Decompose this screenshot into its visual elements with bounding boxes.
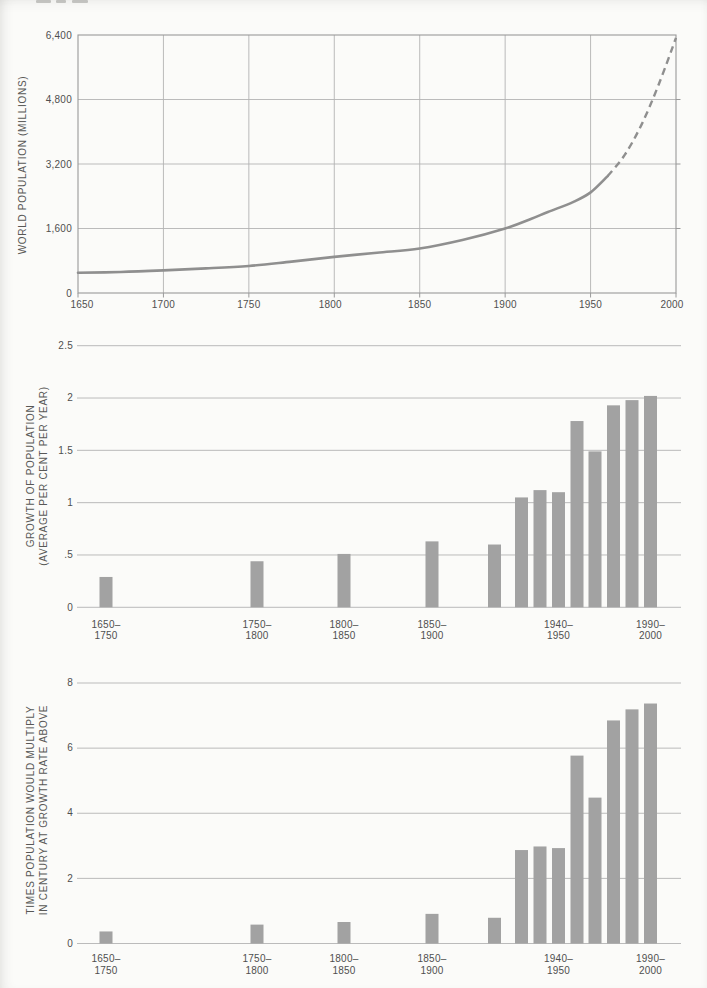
x-tick-label: 1650 [70, 299, 93, 310]
world-population-line-chart: 6,4004,8003,2001,60001650170017501800185… [0, 0, 707, 330]
y-tick-label: 1 [67, 497, 73, 508]
y-tick-label: 6,400 [46, 30, 72, 41]
bar-1970-1980 [607, 405, 620, 607]
bar-1940-1950 [552, 492, 565, 607]
x-tick-label-line1: 1990– [636, 953, 665, 964]
population-curve-projected-dashed [608, 38, 676, 176]
bar-1980-1990 [626, 709, 639, 943]
x-tick-label: 1800 [319, 299, 342, 310]
y-tick-label: 0 [67, 602, 73, 613]
y-tick-label: 2 [67, 392, 73, 403]
bar-1750-1800 [251, 561, 264, 607]
x-tick-label-line2: 1900 [420, 630, 443, 641]
bar-1990-2000 [644, 396, 657, 607]
bar-1850-1900 [426, 914, 439, 944]
y-tick-label: 2 [67, 873, 73, 884]
bar-1750-1800 [251, 925, 264, 944]
bar-1800-1850 [338, 554, 351, 607]
x-tick-label-line2: 1750 [94, 965, 117, 976]
y-tick-label: 8 [67, 677, 73, 688]
x-tick-label-line1: 1990– [636, 619, 665, 630]
x-tick-label: 2000 [660, 299, 683, 310]
x-tick-label: 1900 [494, 299, 517, 310]
growth-rate-bar-chart: 2.521.51.501650–17501750–18001800–185018… [0, 330, 707, 660]
x-tick-label: 1700 [152, 299, 175, 310]
y-tick-label: 0 [67, 938, 73, 949]
x-tick-label-line1: 1650– [91, 619, 120, 630]
x-tick-label-line1: 1800– [329, 953, 358, 964]
y-tick-label: 1.5 [58, 445, 73, 456]
bar-1990-2000 [644, 704, 657, 944]
y-tick-label: .5 [64, 549, 73, 560]
y-tick-label: 4,800 [46, 94, 72, 105]
x-tick-label-line1: 1940– [544, 953, 573, 964]
bar-1940-1950 [552, 848, 565, 943]
x-tick-label-line1: 1750– [242, 619, 271, 630]
bar-1900-1920 [488, 918, 501, 944]
x-tick-label-line2: 1750 [94, 630, 117, 641]
y-tick-label: 4 [67, 807, 73, 818]
x-tick-label-line1: 1940– [544, 619, 573, 630]
bar-1980-1990 [626, 400, 639, 607]
bar-1800-1850 [338, 922, 351, 943]
y-tick-label: 0 [66, 288, 72, 299]
x-tick-label-line2: 1800 [245, 630, 268, 641]
y-tick-label: 3,200 [46, 159, 72, 170]
bar-1650-1750 [100, 577, 113, 607]
x-tick-label-line2: 2000 [639, 630, 662, 641]
multiplication-bar-chart: 864201650–17501750–18001800–18501850–190… [0, 655, 707, 988]
y-tick-label: 6 [67, 742, 73, 753]
x-tick-label: 1750 [237, 299, 260, 310]
x-tick-label-line2: 2000 [639, 965, 662, 976]
x-tick-label-line2: 1850 [332, 630, 355, 641]
x-tick-label-line2: 1850 [332, 965, 355, 976]
bar-1900-1920 [488, 545, 501, 608]
bar-1930-1940 [534, 846, 547, 943]
x-tick-label-line1: 1800– [329, 619, 358, 630]
x-tick-label-line1: 1850– [417, 619, 446, 630]
scanned-page: WORLD POPULATION (MILLIONS) GROWTH OF PO… [0, 0, 707, 988]
bar-1920-1930 [515, 497, 528, 607]
bar-1850-1900 [426, 541, 439, 607]
bar-1970-1980 [607, 720, 620, 943]
x-tick-label-line1: 1650– [91, 953, 120, 964]
y-tick-label: 2.5 [58, 340, 73, 351]
y-tick-label: 1,600 [46, 223, 72, 234]
x-tick-label-line2: 1800 [245, 965, 268, 976]
bar-1950-1960 [571, 421, 584, 607]
x-tick-label-line2: 1900 [420, 965, 443, 976]
bar-1930-1940 [534, 490, 547, 607]
bar-1960-1970 [589, 798, 602, 944]
bar-1960-1970 [589, 451, 602, 607]
x-tick-label-line1: 1750– [242, 953, 271, 964]
x-tick-label: 1850 [408, 299, 431, 310]
bar-1650-1750 [100, 931, 113, 943]
population-curve-solid [78, 176, 608, 273]
x-tick-label-line2: 1950 [547, 630, 570, 641]
bar-1950-1960 [571, 756, 584, 944]
x-tick-label-line2: 1950 [547, 965, 570, 976]
bar-1920-1930 [515, 850, 528, 943]
x-tick-label-line1: 1850– [417, 953, 446, 964]
x-tick-label: 1950 [579, 299, 602, 310]
